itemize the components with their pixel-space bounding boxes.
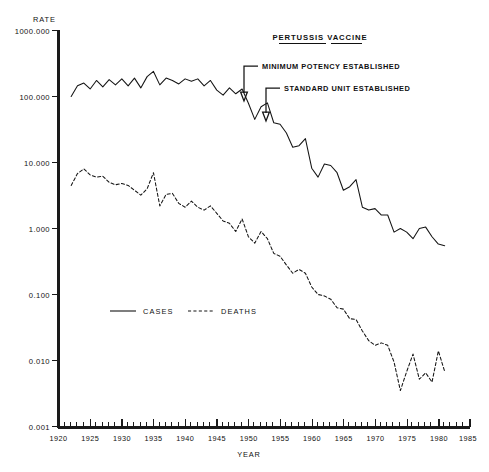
minimum-potency-label: MINIMUM POTENCY ESTABLISHED bbox=[262, 62, 400, 71]
standard-unit-label: STANDARD UNIT ESTABLISHED bbox=[284, 84, 411, 93]
x-tick-label-1940: 1940 bbox=[176, 434, 194, 443]
x-tick-label-1925: 1925 bbox=[81, 434, 99, 443]
x-axis-minor-ticks bbox=[64, 422, 462, 427]
annotation-pertussis-vaccine: PERTUSSIS VACCINE bbox=[272, 33, 367, 44]
x-tick-label-1920: 1920 bbox=[49, 434, 67, 443]
y-tick-label-1: 1.000 bbox=[29, 225, 50, 234]
y-axis-title: RATE bbox=[33, 15, 56, 24]
x-axis-title: YEAR bbox=[237, 450, 261, 459]
y-tick-label-1000: 1000.000 bbox=[15, 27, 50, 36]
x-tick-label-1980: 1980 bbox=[430, 434, 448, 443]
y-tick-label-100: 100.000 bbox=[19, 93, 50, 102]
legend-label-cases: CASES bbox=[143, 307, 174, 316]
minimum-potency-leader-line bbox=[244, 66, 258, 93]
x-axis-tick-labels: 1920 1925 1930 1935 1940 1945 1950 1955 … bbox=[49, 434, 477, 443]
x-tick-label-1935: 1935 bbox=[145, 434, 163, 443]
x-axis-major-ticks bbox=[59, 419, 471, 427]
y-tick-label-0.001: 0.001 bbox=[29, 423, 50, 432]
x-tick-label-1970: 1970 bbox=[366, 434, 384, 443]
y-tick-label-0.1: 0.100 bbox=[29, 291, 50, 300]
pertussis-rate-chart-figure: 1000.000 100.000 10.000 1.000 0.100 0.01… bbox=[0, 0, 489, 472]
y-tick-label-0.01: 0.010 bbox=[29, 357, 50, 366]
x-tick-label-1950: 1950 bbox=[240, 434, 258, 443]
x-tick-label-1955: 1955 bbox=[271, 434, 289, 443]
legend-label-deaths: DEATHS bbox=[221, 307, 257, 316]
y-axis-ticks bbox=[52, 31, 58, 427]
standard-unit-arrowhead bbox=[263, 112, 270, 121]
x-tick-label-1985: 1985 bbox=[459, 434, 477, 443]
series-line-cases bbox=[71, 71, 445, 245]
chart-legend: CASES DEATHS bbox=[110, 307, 257, 316]
legend-item-deaths: DEATHS bbox=[188, 307, 257, 316]
x-tick-label-1945: 1945 bbox=[208, 434, 226, 443]
x-tick-label-1975: 1975 bbox=[398, 434, 416, 443]
x-tick-label-1930: 1930 bbox=[113, 434, 131, 443]
annotation-standard-unit: STANDARD UNIT ESTABLISHED bbox=[263, 84, 411, 121]
standard-unit-leader-line bbox=[266, 88, 280, 113]
x-tick-label-1965: 1965 bbox=[335, 434, 353, 443]
legend-item-cases: CASES bbox=[110, 307, 174, 316]
y-tick-label-10: 10.000 bbox=[24, 159, 50, 168]
series-line-deaths bbox=[71, 169, 445, 391]
chart-canvas: 1000.000 100.000 10.000 1.000 0.100 0.01… bbox=[0, 0, 489, 472]
annotation-minimum-potency: MINIMUM POTENCY ESTABLISHED bbox=[241, 62, 401, 101]
x-tick-label-1960: 1960 bbox=[303, 434, 321, 443]
pertussis-vaccine-label: PERTUSSIS VACCINE bbox=[272, 33, 367, 42]
y-axis-tick-labels: 1000.000 100.000 10.000 1.000 0.100 0.01… bbox=[15, 27, 50, 432]
